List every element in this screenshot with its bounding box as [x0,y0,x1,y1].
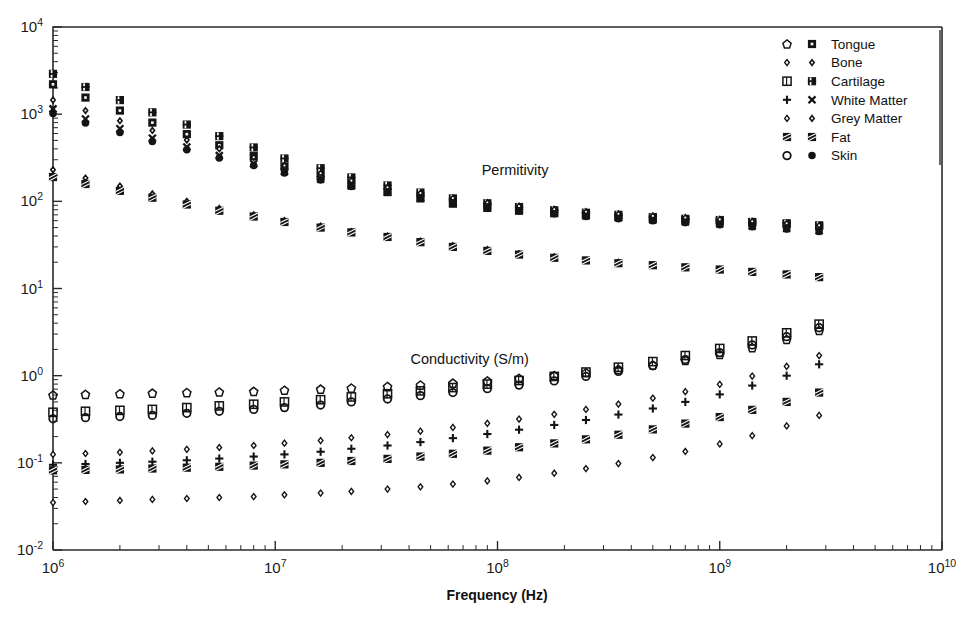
series-permittivity-bone [50,166,823,282]
legend-label: White Matter [831,93,908,108]
series-conductivity-cartilage [49,320,823,416]
series-conductivity-white-matter [49,360,823,469]
legend-marker-conductivity-icon [783,77,791,85]
plot-annotations: PermitivityConductivity (S/m) [411,162,550,367]
series-conductivity-fat [49,388,823,474]
legend-marker-conductivity-icon [783,152,791,160]
legend-marker-permittivity-icon [808,40,816,48]
x-tick-label: 106 [42,557,65,576]
series-permittivity-cartilage [49,70,823,230]
series-permittivity-skin [49,110,823,236]
legend-marker-conductivity-icon [784,59,790,67]
legend-item-cartilage[interactable]: Cartilage [783,74,885,89]
legend-label: Fat [831,130,851,145]
legend-marker-conductivity-icon [784,114,790,122]
legend-item-bone[interactable]: Bone [784,55,863,70]
series-conductivity-bone [50,411,823,506]
x-tick-label: 109 [708,557,731,576]
log-log-scatter-chart: 1061071081091010 10-210-1100101102103104… [0,0,967,622]
x-tick-label: 108 [486,557,509,576]
x-axis-title: Frequency (Hz) [446,587,547,603]
series-permittivity-white-matter [50,105,823,234]
legend-marker-conductivity-icon [783,133,791,141]
series-permittivity-grey-matter [50,96,823,229]
legend-marker-permittivity-icon [809,59,815,67]
legend-item-white-matter[interactable]: White Matter [783,93,908,108]
legend-label: Tongue [831,37,875,52]
legend-label: Cartilage [831,74,885,89]
series-conductivity-grey-matter [50,351,823,458]
legend-item-tongue[interactable]: Tongue [783,37,875,52]
legend-label: Skin [831,148,857,163]
legend-marker-permittivity-icon [809,96,816,103]
y-tick-label: 10-2 [17,539,43,558]
legend-label: Grey Matter [831,111,903,126]
legend-marker-conductivity-icon [783,40,791,48]
legend-marker-conductivity-icon [783,96,791,104]
y-tick-labels: 10-210-1100101102103104 [17,16,43,558]
legend-marker-permittivity-icon [808,77,816,85]
legend[interactable]: TongueBoneCartilageWhite MatterGrey Matt… [783,30,940,165]
x-tick-label: 1010 [928,557,957,576]
y-tick-label: 104 [20,16,43,35]
series-permittivity-tongue [49,80,823,230]
x-tick-labels: 1061071081091010 [42,557,957,576]
legend-item-skin[interactable]: Skin [783,148,857,163]
series-conductivity-skin [49,324,823,423]
annotation-conductivity-s-m: Conductivity (S/m) [411,351,529,367]
y-tick-label: 100 [20,365,43,384]
data-points [49,70,823,507]
legend-marker-permittivity-icon [809,114,815,122]
legend-item-fat[interactable]: Fat [783,130,851,145]
legend-marker-permittivity-icon [808,133,816,141]
x-tick-label: 107 [264,557,287,576]
y-tick-label: 10-1 [17,452,43,471]
legend-label: Bone [831,55,863,70]
y-tick-label: 103 [20,103,43,122]
legend-marker-permittivity-icon [808,152,816,160]
annotation-permitivity: Permitivity [482,162,550,178]
figure-canvas: 1061071081091010 10-210-1100101102103104… [0,0,967,622]
series-permittivity-fat [49,173,823,281]
legend-item-grey-matter[interactable]: Grey Matter [784,111,903,126]
y-tick-label: 102 [20,190,43,209]
y-tick-label: 101 [20,278,43,297]
